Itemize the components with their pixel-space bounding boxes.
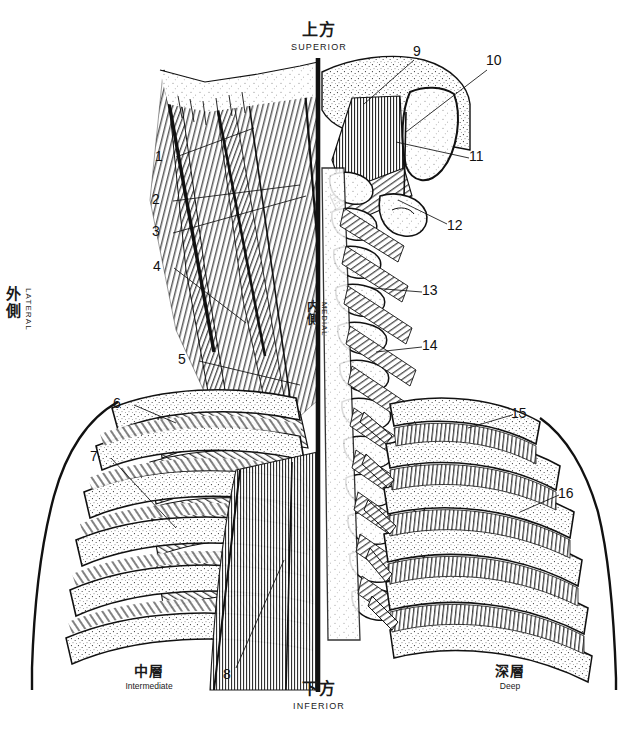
- callout-10: 10: [486, 52, 502, 68]
- callout-6: 6: [113, 395, 121, 411]
- anatomical-figure: [0, 0, 643, 732]
- callout-14: 14: [422, 337, 438, 353]
- callout-1: 1: [155, 148, 163, 164]
- callout-8: 8: [223, 666, 231, 682]
- callout-2: 2: [152, 191, 160, 207]
- callout-12: 12: [447, 217, 463, 233]
- callout-11: 11: [469, 148, 484, 164]
- callout-3: 3: [152, 223, 160, 239]
- callout-5: 5: [178, 351, 186, 367]
- callout-15: 15: [511, 405, 527, 421]
- callout-9: 9: [413, 43, 421, 59]
- callout-4: 4: [153, 258, 161, 274]
- callout-16: 16: [558, 485, 574, 501]
- callout-13: 13: [422, 282, 438, 298]
- callout-7: 7: [90, 448, 98, 464]
